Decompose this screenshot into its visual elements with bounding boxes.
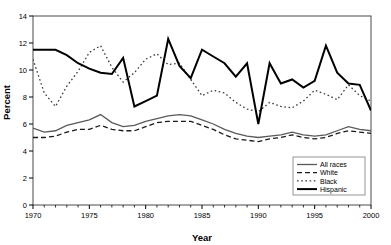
series-line-black [33, 46, 371, 112]
series-line-white [33, 121, 371, 141]
y-tick-label: 6 [23, 120, 27, 129]
legend-label-hispanic: Hispanic [320, 186, 347, 194]
legend: All racesWhiteBlackHispanic [293, 157, 365, 195]
y-tick-label: 10 [19, 66, 27, 75]
y-tick-label: 12 [19, 39, 27, 48]
series-group [33, 39, 371, 142]
x-tick-label: 1990 [250, 211, 267, 220]
series-line-hispanic [33, 39, 371, 124]
legend-label-black: Black [320, 178, 338, 185]
x-tick-label: 1970 [25, 211, 42, 220]
x-tick-label: 1975 [81, 211, 98, 220]
chart-figure: Percent Year 197019751980198519901995200… [0, 0, 391, 245]
x-tick-label: 1985 [194, 211, 211, 220]
y-tick-label: 14 [19, 12, 27, 21]
x-tick-label: 2000 [363, 211, 380, 220]
series-line-all-races [33, 115, 371, 138]
y-tick-label: 4 [23, 147, 27, 156]
legend-label-white: White [320, 169, 338, 176]
y-tick-label: 0 [23, 201, 27, 210]
y-tick-label: 8 [23, 93, 27, 102]
y-tick-label: 2 [23, 174, 27, 183]
line-chart: 197019751980198519901995200002468101214A… [0, 0, 391, 245]
x-tick-label: 1980 [137, 211, 154, 220]
x-tick-label: 1995 [306, 211, 323, 220]
legend-label-all-races: All races [320, 161, 347, 168]
